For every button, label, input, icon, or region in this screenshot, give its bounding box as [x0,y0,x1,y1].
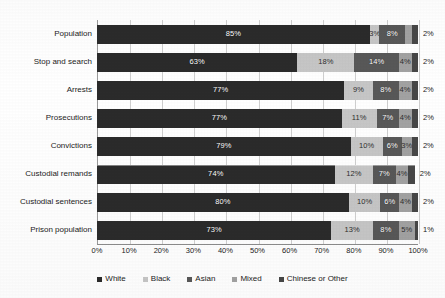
bar-segment: 5% [399,221,415,240]
y-axis-label: Custodial remands [0,170,92,178]
legend-label: Asian [195,275,215,283]
bar-segment: 77% [97,109,342,128]
legend-item[interactable]: White [97,275,125,283]
bar-segment: 10% [349,193,380,212]
bar-segment-value-label: 8% [380,86,391,94]
legend-label: Chinese or Other [287,275,348,283]
bar-segment: 7% [373,165,395,184]
bar-segment-value-label: 2% [423,198,434,206]
bar-segment-value-label: 63% [189,58,204,66]
x-axis-tick-label: 40% [218,247,233,255]
legend-label: Black [151,275,171,283]
x-axis-tick-label: 100% [408,247,427,255]
bar-segment-value-label: 4% [400,114,411,122]
bar-segment: 4% [399,81,412,100]
bar-segment-value-label: 7% [379,170,390,178]
bar-segment: 2% [412,137,418,156]
bar-segment-value-label: 7% [382,114,393,122]
bar-segment-value-label: 6% [384,198,395,206]
x-axis-tick-label: 80% [346,247,361,255]
bar-segment-value-label: 74% [208,170,223,178]
bar-row: 74%12%7%4%2% [97,165,418,184]
bar-segment-value-label: 11% [352,114,367,122]
bar-segment-value-label: 77% [212,114,227,122]
legend-swatch-icon [97,277,102,282]
bar-segment-value-label: 4% [400,198,411,206]
bar-segment: 4% [399,53,412,72]
bar-segment: 6% [383,137,402,156]
bar-segment: 79% [97,137,351,156]
bar-segment: 18% [297,53,354,72]
bar-segment: 4% [396,165,409,184]
x-axis-tick-label: 30% [186,247,201,255]
bar-segment-value-label: 80% [215,198,230,206]
y-axis-label: Prison population [0,226,92,234]
y-axis-label: Prosecutions [0,114,92,122]
bar-segment-value-label: 77% [213,86,228,94]
legend-swatch-icon [232,277,237,282]
bar-segment-value-label: 4% [400,86,411,94]
legend-swatch-icon [187,277,192,282]
bar-segment-value-label: 4% [396,170,407,178]
bar-segment-value-label: 18% [318,58,333,66]
bar-segment: 12% [335,165,374,184]
y-axis-label: Population [0,30,92,38]
bar-segment-value-label: 73% [207,226,222,234]
bar-segment: 8% [373,221,399,240]
x-axis-tick-label: 90% [378,247,393,255]
bar-segment: 4% [399,109,412,128]
bar-segment-value-label: 2% [423,58,434,66]
legend-swatch-icon [143,277,148,282]
x-axis-tick-label: 20% [154,247,169,255]
bar-segment: 80% [97,193,349,212]
bar-segment: 2% [412,81,418,100]
bar-row: 80%10%6%4%2% [97,193,418,212]
legend-item[interactable]: Mixed [232,275,261,283]
bar-segment-value-label: 14% [369,58,384,66]
bar-segment: 14% [354,53,399,72]
bar-segment: 1% [415,221,418,240]
bar-segment: 3% [370,25,380,44]
bar-segment-value-label: 2% [423,142,434,150]
bar-segment: 10% [351,137,383,156]
bar-segment-value-label: 13% [345,226,360,234]
bar-segment-value-label: 8% [380,226,391,234]
bar-segment: 4% [399,193,412,212]
bar-segment: 8% [373,81,399,100]
legend-swatch-icon [279,277,284,282]
bar-segment: 2% [412,53,418,72]
bar-segment-value-label: 5% [401,226,412,234]
bar-segment: 2% [408,165,414,184]
bar-segment: 6% [380,193,399,212]
bar-segment: 7% [377,109,399,128]
gridline [419,20,420,244]
legend-label: Mixed [240,275,261,283]
legend-item[interactable]: Chinese or Other [279,275,348,283]
bar-segment-value-label: 10% [357,198,372,206]
bar-segment-value-label: 12% [346,170,361,178]
bar-segment: 13% [331,221,373,240]
bar-segment-value-label: 10% [359,142,374,150]
bar-row: 73%13%8%5%1% [97,221,418,240]
bar-segment-value-label: 2% [420,170,431,178]
y-axis-label: Custodial sentences [0,198,92,206]
bar-segment: 3% [402,137,412,156]
bar-segment: 77% [97,81,344,100]
bar-segment-value-label: 2% [423,30,434,38]
bar-segment-value-label: 4% [400,58,411,66]
bar-row: 77%11%7%4%2% [97,109,418,128]
bar-segment-value-label: 79% [216,142,231,150]
x-axis-tick-label: 70% [314,247,329,255]
bar-segment: 63% [97,53,297,72]
legend-item[interactable]: Asian [187,275,215,283]
y-axis-label: Arrests [0,86,92,94]
x-axis-tick-label: 10% [122,247,137,255]
bar-row: 77%9%8%4%2% [97,81,418,100]
bar-segment: 85% [97,25,370,44]
bar-segment-value-label: 6% [387,142,398,150]
bar-row: 85%3%8%2%2% [97,25,418,44]
x-axis-tick-label: 50% [250,247,265,255]
bar-segment: 8% [379,25,405,44]
legend-item[interactable]: Black [143,275,171,283]
bar-row: 63%18%14%4%2% [97,53,418,72]
